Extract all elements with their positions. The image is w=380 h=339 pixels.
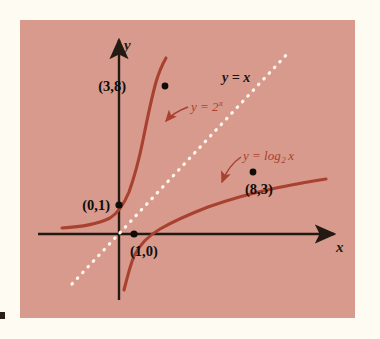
point-1-0 <box>130 230 137 237</box>
point-0-1 <box>115 201 122 208</box>
log-curve-label: y = log2x <box>241 148 294 165</box>
exponential-label-base: y = 2 <box>189 99 219 114</box>
identity-line-label: y = x <box>220 70 250 85</box>
log-label-lhs: y = log <box>241 148 281 163</box>
point-label-0-1: (0,1) <box>82 197 110 214</box>
point-label-1-0: (1,0) <box>130 243 158 260</box>
point-label-8-3: (8,3) <box>245 181 273 198</box>
exponential-label-exponent: x <box>218 98 223 108</box>
exponential-label-leader <box>166 107 188 121</box>
log-label-leader <box>222 157 241 182</box>
exponential-curve-label: y = 2x <box>189 98 223 114</box>
log-label-base: 2 <box>281 155 286 165</box>
point-8-3 <box>250 169 257 176</box>
x-axis-label: x <box>335 239 344 255</box>
point-3-8 <box>162 83 169 90</box>
log-label-arg: x <box>287 148 294 163</box>
y-axis-label: y <box>122 37 131 53</box>
graph-plot: (3,8) (0,1) (1,0) (8,3) y x y = 2x y = l… <box>0 0 380 339</box>
figure-container: (3,8) (0,1) (1,0) (8,3) y x y = 2x y = l… <box>0 0 380 339</box>
point-label-3-8: (3,8) <box>98 78 126 95</box>
